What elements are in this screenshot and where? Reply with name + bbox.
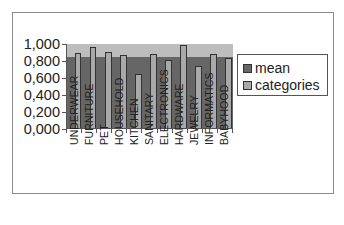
y-tick-label: 0,000	[6, 122, 60, 136]
legend-label-mean: mean	[255, 61, 290, 75]
y-tick-label: 0,600	[6, 71, 60, 85]
legend-swatch-mean	[243, 64, 252, 73]
x-tick-label: KITCHEN	[128, 98, 140, 145]
x-tick-label: HARDWARE	[173, 83, 185, 145]
y-tick-label: 0,200	[6, 105, 60, 119]
legend-item-categories: categories	[243, 78, 320, 92]
x-tick-label: JEWELRY	[188, 95, 200, 145]
y-tick-label: 0,800	[6, 54, 60, 68]
legend-label-categories: categories	[255, 78, 320, 92]
y-tick-label: 0,400	[6, 88, 60, 102]
x-tick-label: ELECTRONICS	[158, 69, 170, 145]
x-tick-label: UNDERWEAR	[68, 75, 80, 145]
legend-item-mean: mean	[243, 61, 290, 75]
x-tick-label: INFORMATICS	[203, 72, 215, 145]
x-tick-label: SANITARY	[143, 93, 155, 145]
legend-swatch-categories	[243, 81, 252, 90]
x-tick-label: PET	[98, 124, 110, 145]
x-tick-label: FURNITURE	[83, 83, 95, 145]
x-tick	[66, 129, 67, 133]
x-tick-label: BABYHOOD	[218, 85, 230, 145]
legend: mean categories	[237, 54, 328, 96]
x-tick	[81, 129, 82, 133]
y-tick-label: 1,000	[6, 37, 60, 51]
x-tick	[232, 129, 233, 133]
x-tick-label: HOUSEHOLD	[113, 78, 125, 145]
bar-category	[105, 52, 112, 128]
